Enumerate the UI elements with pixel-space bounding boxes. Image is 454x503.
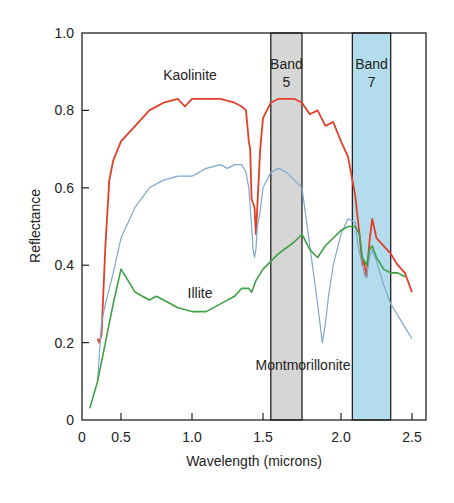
x-tick-label: 1.0 bbox=[182, 429, 202, 445]
y-tick-label: 0.8 bbox=[55, 102, 75, 118]
band-label: Band bbox=[270, 56, 303, 72]
band-number: 7 bbox=[368, 74, 376, 90]
y-tick-label: 0.6 bbox=[55, 180, 75, 196]
x-tick-label: 0 bbox=[78, 429, 86, 445]
x-tick-label: 0.5 bbox=[111, 429, 131, 445]
y-tick-label: 0.2 bbox=[55, 335, 75, 351]
band-number: 5 bbox=[283, 74, 291, 90]
annotation-montmorillonite: Montmorillonite bbox=[256, 357, 351, 373]
y-tick-label: 0.4 bbox=[55, 257, 75, 273]
reflectance-chart: 00.51.01.52.02.5 00.20.40.60.81.0 Band5B… bbox=[0, 0, 454, 503]
band-label: Band bbox=[355, 56, 388, 72]
x-axis-label: Wavelength (microns) bbox=[186, 453, 322, 469]
y-tick-label: 0 bbox=[66, 412, 74, 428]
x-tick-label: 2.5 bbox=[402, 429, 422, 445]
annotation-kaolinite: Kaolinite bbox=[163, 67, 217, 83]
y-axis-label: Reflectance bbox=[27, 189, 43, 263]
x-tick-label: 2.0 bbox=[331, 429, 351, 445]
x-tick-label: 1.5 bbox=[253, 429, 273, 445]
annotation-illite: Illite bbox=[188, 285, 213, 301]
y-axis-ticks: 00.20.40.60.81.0 bbox=[55, 25, 89, 428]
y-tick-label: 1.0 bbox=[55, 25, 75, 41]
